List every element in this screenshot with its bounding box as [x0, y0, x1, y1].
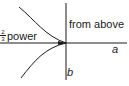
- curve-label-power: power: [7, 31, 37, 42]
- lower-cusp-branch: [21, 43, 66, 78]
- region-label-from-above: from above: [69, 19, 124, 30]
- exponent-denominator: 3: [0, 36, 6, 42]
- axis-label-a: a: [112, 44, 118, 55]
- axis-label-b: b: [67, 67, 73, 78]
- cusp-diagram: [0, 0, 129, 86]
- exponent-fraction: 2 3: [0, 29, 6, 42]
- exponent-numerator: 2: [0, 29, 6, 36]
